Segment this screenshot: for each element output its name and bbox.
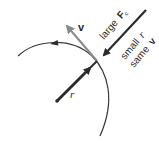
direction-arrowhead-icon xyxy=(50,40,59,47)
annotation-large-force: large Fc xyxy=(97,7,129,42)
diagram-canvas: v r large Fc small r same v xyxy=(0,0,159,143)
radius-label: r xyxy=(70,88,75,100)
velocity-label: v xyxy=(78,21,85,33)
radius-vector xyxy=(55,61,97,103)
svg-text:large Fc: large Fc xyxy=(97,7,129,42)
circular-path xyxy=(18,40,109,136)
